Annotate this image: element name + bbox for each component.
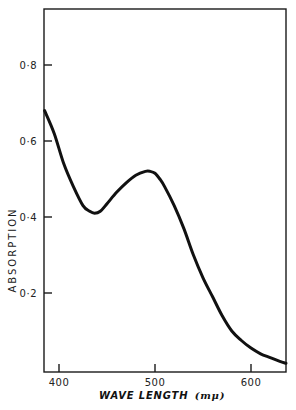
x-axis-ticks: 400500600	[49, 364, 262, 388]
y-axis-title: ABSORPTION	[7, 207, 18, 292]
y-tick-label: 0·8	[20, 60, 37, 71]
y-tick-label: 0·6	[20, 136, 37, 147]
x-axis-title-text: WAVE LENGTH	[99, 390, 188, 401]
x-tick-label: 500	[145, 377, 166, 388]
x-tick-label: 400	[49, 377, 70, 388]
x-axis-title: WAVE LENGTH (mμ)	[99, 390, 225, 401]
absorption-curve	[45, 111, 286, 364]
y-tick-label: 0·4	[20, 212, 37, 223]
absorption-chart: 0·20·40·60·8 400500600 ABSORPTION WAVE L…	[0, 0, 296, 410]
x-tick-label: 600	[241, 377, 262, 388]
x-axis-unit: (mμ)	[195, 390, 226, 401]
y-axis-ticks: 0·20·40·60·8	[20, 60, 52, 299]
y-tick-label: 0·2	[20, 288, 37, 299]
